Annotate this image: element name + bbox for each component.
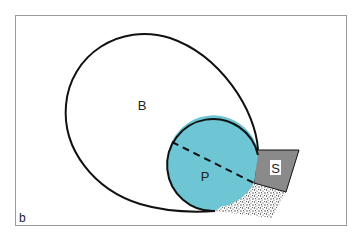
diagram-figure: B P S b [0,0,361,239]
panel-label: b [19,211,26,225]
label-b: B [138,98,147,113]
label-s: S [271,161,280,176]
label-p: P [201,169,210,184]
